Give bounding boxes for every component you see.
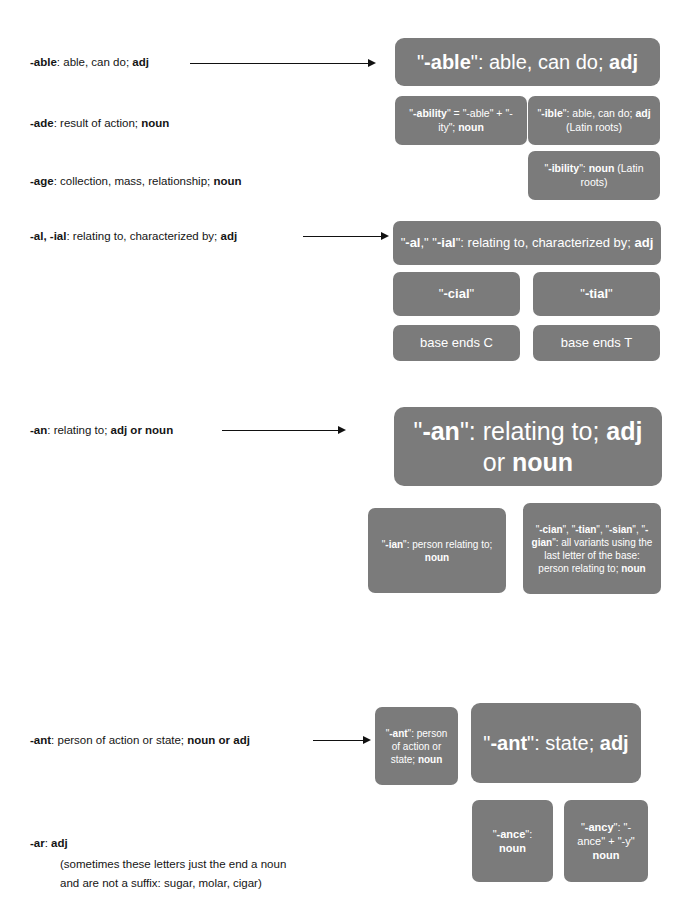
box-ance: "-ance": noun	[472, 800, 553, 882]
suffix-term-ade: -ade	[30, 117, 54, 129]
box-ant-person-text: "-ant": person of action or state; noun	[381, 727, 452, 766]
suffix-meaning-ant: : person of action or state;	[51, 734, 187, 746]
suffix-term-al-ial: -al, -ial	[30, 230, 66, 242]
ar-note-line-1: (sometimes these letters just the end a …	[60, 856, 286, 873]
box-able-main-text: "-able": able, can do; adj	[401, 50, 654, 75]
box-al-ial-main-text: "-al," "-ial": relating to, characterize…	[399, 235, 655, 251]
definition-line-age: -age: collection, mass, relationship; no…	[30, 174, 242, 189]
definition-line-ant: -ant: person of action or state; noun or…	[30, 733, 250, 748]
box-ability: "-ability" = "-able" + "-ity"; noun	[395, 96, 527, 145]
box-ian-text: "-ian": person relating to; noun	[374, 538, 500, 564]
definition-line-able: -able: able, can do; adj	[30, 55, 149, 70]
suffix-meaning-an: : relating to;	[47, 424, 110, 436]
arrow-shaft	[190, 63, 369, 64]
arrow-ant	[313, 736, 371, 745]
box-ibility-text: "-ibility": noun (Latin roots)	[534, 162, 654, 189]
box-ant-person: "-ant": person of action or state; noun	[375, 707, 458, 785]
suffix-pos-ant: noun or adj	[187, 734, 250, 746]
box-cial-text: "-cial"	[399, 286, 514, 302]
arrow-shaft	[222, 430, 339, 431]
box-ible: "-ible": able, can do; adj (Latin roots)	[528, 96, 660, 145]
box-ancy: "-ancy": "-ance" + "-y" noun	[564, 800, 648, 882]
box-tial-text: "-tial"	[539, 286, 654, 302]
box-base-ends-c-text: base ends C	[399, 335, 514, 351]
box-an-main-text: "-an": relating to; adj or noun	[400, 416, 656, 478]
arrow-head	[368, 59, 376, 67]
box-able-main: "-able": able, can do; adj	[395, 38, 660, 86]
box-al-ial-main: "-al," "-ial": relating to, characterize…	[393, 221, 661, 265]
definition-line-al-ial: -al, -ial: relating to, characterized by…	[30, 229, 237, 244]
box-ible-text: "-ible": able, can do; adj (Latin roots)	[534, 107, 654, 134]
box-tial: "-tial"	[533, 272, 660, 316]
suffix-pos-al-ial: adj	[221, 230, 238, 242]
box-base-ends-c: base ends C	[393, 325, 520, 361]
suffix-meaning-ade: : result of action;	[54, 117, 142, 129]
box-ant-state-text: "-ant": state; adj	[477, 731, 635, 756]
suffix-meaning-able: : able, can do;	[57, 56, 132, 68]
suffix-term-ant: -ant	[30, 734, 51, 746]
box-an-main: "-an": relating to; adj or noun	[394, 407, 662, 486]
arrow-head	[338, 426, 346, 434]
arrow-shaft	[303, 236, 382, 237]
suffix-term-able: -able	[30, 56, 57, 68]
arrow-an	[222, 426, 346, 435]
arrow-head	[363, 736, 371, 744]
box-ance-text: "-ance": noun	[478, 827, 547, 855]
suffix-meaning-al-ial: : relating to, characterized by;	[66, 230, 220, 242]
box-ancy-text: "-ancy": "-ance" + "-y" noun	[570, 820, 642, 862]
definition-line-ar: -ar: adj	[30, 836, 68, 851]
arrow-shaft	[313, 740, 364, 741]
ar-note-line-2: and are not a suffix: sugar, molar, ciga…	[60, 875, 262, 892]
definition-line-ade: -ade: result of action; noun	[30, 116, 169, 131]
suffix-term-an: -an	[30, 424, 47, 436]
arrow-able	[190, 59, 376, 68]
box-cian-variants: "-cian", "-tian", "-sian", "-gian": all …	[523, 503, 661, 594]
suffix-pos-ade: noun	[141, 117, 169, 129]
box-base-ends-t: base ends T	[533, 325, 660, 361]
suffix-term-ar: -ar	[30, 837, 45, 849]
suffix-meaning-age: : collection, mass, relationship;	[54, 175, 214, 187]
suffix-term-age: -age	[30, 175, 54, 187]
arrow-head	[381, 232, 389, 240]
suffix-pos-an: adj or noun	[111, 424, 174, 436]
suffix-chart-page: -able: able, can do; adj -ade: result of…	[0, 0, 693, 913]
box-ability-text: "-ability" = "-able" + "-ity"; noun	[401, 107, 521, 134]
definition-line-an: -an: relating to; adj or noun	[30, 423, 173, 438]
box-ibility: "-ibility": noun (Latin roots)	[528, 151, 660, 200]
arrow-al-ial	[303, 232, 389, 241]
box-ant-state: "-ant": state; adj	[471, 703, 641, 783]
suffix-pos-ar: adj	[51, 837, 68, 849]
box-base-ends-t-text: base ends T	[539, 335, 654, 351]
box-cian-variants-text: "-cian", "-tian", "-sian", "-gian": all …	[529, 523, 655, 575]
box-cial: "-cial"	[393, 272, 520, 316]
box-ian: "-ian": person relating to; noun	[368, 508, 506, 593]
suffix-pos-age: noun	[213, 175, 241, 187]
suffix-pos-able: adj	[132, 56, 149, 68]
